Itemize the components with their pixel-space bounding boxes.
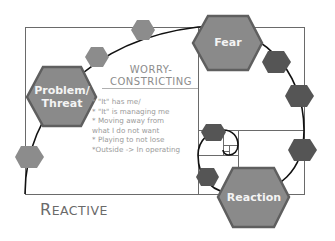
section-heading-underline (102, 88, 198, 89)
title-rest: EACTIVE (52, 203, 108, 218)
bullet-item: * Moving away from (92, 116, 212, 126)
bullet-list: * "It" has me/ * "It" is managing me * M… (92, 97, 212, 155)
bullet-item: * Playing to not lose (92, 135, 212, 145)
section-heading-line2: CONSTRICTING (106, 76, 196, 87)
hexagon-small-3 (15, 146, 44, 168)
diagram-title: REACTIVE (40, 200, 108, 219)
bullet-item: * "It" is managing me (92, 107, 212, 117)
bullet-item: *Outside -> In operating (92, 145, 212, 155)
section-heading-line1: WORRY- (106, 64, 196, 75)
node-label-problem-threat: Problem/ Threat (30, 84, 94, 110)
hexagon-dark-2 (285, 85, 314, 107)
node-label-line: Problem/ (30, 84, 94, 97)
bullet-item: what I do not want (92, 126, 212, 136)
hexagon-dark-3 (288, 139, 317, 161)
bullet-item: * "It" has me/ (92, 97, 212, 107)
node-label-line: Threat (30, 97, 94, 110)
node-label-reaction: Reaction (222, 191, 286, 204)
title-initial: R (40, 200, 52, 219)
node-label-fear: Fear (200, 36, 256, 49)
hexagon-dark-5 (196, 168, 219, 186)
